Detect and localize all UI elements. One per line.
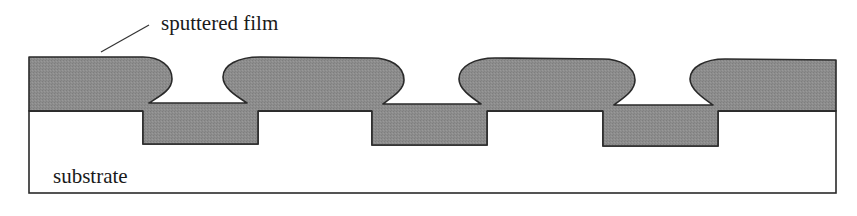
- sputtered-film-label: sputtered film: [161, 11, 278, 35]
- sputtered-film-layer: [29, 57, 836, 146]
- substrate-label: substrate: [53, 164, 128, 188]
- sputtered-film-cross-section-diagram: sputtered film substrate: [0, 0, 857, 216]
- film-leader-line: [101, 25, 149, 52]
